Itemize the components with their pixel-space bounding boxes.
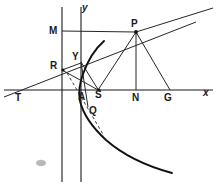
tangent-extension-line bbox=[136, 8, 213, 32]
point-label-P: P bbox=[131, 19, 138, 29]
point-label-Y: Y bbox=[72, 52, 79, 62]
parabola-figure: x y M P Y R T A S N G Q bbox=[0, 0, 216, 188]
normal-PG bbox=[136, 32, 170, 90]
axis-label-y: y bbox=[82, 3, 88, 13]
point-label-G: G bbox=[164, 93, 172, 103]
point-dot-R bbox=[61, 68, 64, 71]
perpendicular-MP bbox=[62, 31, 136, 32]
point-label-N: N bbox=[132, 93, 139, 103]
point-label-A: A bbox=[78, 92, 85, 102]
figure-canvas bbox=[0, 0, 216, 188]
segment-RY bbox=[62, 63, 81, 70]
point-dot-P bbox=[134, 30, 138, 34]
point-label-M: M bbox=[49, 26, 57, 36]
gray-smudge bbox=[36, 160, 46, 166]
point-label-S: S bbox=[95, 90, 102, 100]
axis-label-x: x bbox=[203, 88, 209, 98]
point-label-R: R bbox=[50, 61, 57, 71]
point-label-T: T bbox=[15, 93, 21, 103]
point-label-Q: Q bbox=[89, 106, 97, 116]
